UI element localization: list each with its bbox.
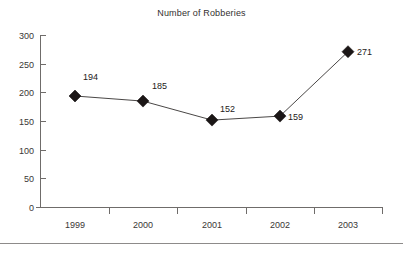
x-tick-marks: [110, 208, 383, 214]
data-point-marker-1999[interactable]: [69, 90, 81, 102]
x-tick-label: 1999: [65, 220, 85, 230]
y-tick-label: 0: [29, 203, 34, 213]
data-value-label-1999: 194: [83, 72, 98, 82]
x-tick-label: 2002: [270, 220, 290, 230]
y-tick-label: 100: [19, 146, 34, 156]
data-value-label-2003: 271: [357, 47, 372, 57]
y-tick-label: 250: [19, 60, 34, 70]
data-value-label-2000: 185: [152, 81, 167, 91]
data-value-label-2001: 152: [220, 104, 235, 114]
y-axis-tick-labels: 300 250 200 150 100 50 0: [19, 31, 34, 213]
page-divider: [0, 243, 403, 244]
y-tick-label: 50: [24, 174, 34, 184]
data-value-label-2002: 159: [288, 112, 303, 122]
x-tick-label: 2003: [338, 220, 358, 230]
data-point-marker-2001[interactable]: [206, 114, 218, 126]
y-tick-label: 200: [19, 88, 34, 98]
x-tick-label: 2001: [202, 220, 222, 230]
data-point-marker-2000[interactable]: [137, 95, 149, 107]
data-value-labels: 194 185 152 159 271: [83, 47, 372, 122]
y-tick-label: 150: [19, 117, 34, 127]
x-tick-label: 2000: [133, 220, 153, 230]
y-tick-label: 300: [19, 31, 34, 41]
series-line-robberies: [75, 52, 348, 120]
x-axis-tick-labels: 1999 2000 2001 2002 2003: [65, 220, 358, 230]
line-chart-plot: 300 250 200 150 100 50 0 1999 2000 2001 …: [0, 0, 403, 256]
chart-screenshot: Number of Robberies 300 250 200 150 100 …: [0, 0, 403, 256]
